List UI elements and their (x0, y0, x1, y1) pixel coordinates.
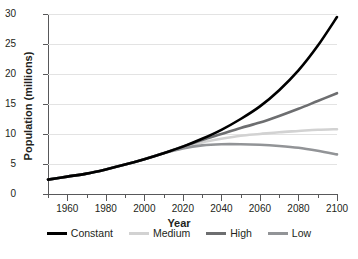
legend-swatch-medium (129, 232, 149, 235)
y-tick-label: 5 (0, 159, 16, 169)
legend-label: Medium (153, 228, 190, 239)
x-tick-mark-major (67, 195, 68, 201)
y-axis-title: Population (millions) (22, 26, 34, 186)
legend-label: Constant (71, 228, 113, 239)
x-tick-mark-minor (87, 195, 88, 198)
series-line-low (48, 144, 337, 180)
x-tick-mark-minor (279, 195, 280, 198)
y-tick-label: 30 (0, 9, 16, 19)
legend-label: High (230, 228, 252, 239)
x-tick-mark-major (106, 195, 107, 201)
series-line-high (48, 93, 337, 179)
legend-swatch-low (268, 232, 288, 235)
x-tick-label: 2020 (163, 203, 203, 214)
legend: ConstantMediumHighLow (0, 228, 358, 239)
x-tick-mark-major (183, 195, 184, 201)
x-tick-mark-major (337, 195, 338, 201)
y-tick-label: 15 (0, 99, 16, 109)
x-tick-mark-minor (125, 195, 126, 198)
legend-swatch-high (206, 232, 226, 235)
y-tick-label: 25 (0, 39, 16, 49)
x-tick-mark-major (221, 195, 222, 201)
y-tick-mark (43, 134, 48, 135)
x-tick-mark-minor (241, 195, 242, 198)
y-tick-mark (43, 74, 48, 75)
x-tick-label: 1980 (86, 203, 126, 214)
x-tick-label: 1960 (47, 203, 87, 214)
x-tick-mark-minor (202, 195, 203, 198)
y-tick-mark (43, 44, 48, 45)
x-axis-line (48, 194, 338, 195)
series-lines (48, 14, 337, 194)
legend-item-low[interactable]: Low (268, 228, 311, 239)
legend-label: Low (292, 228, 311, 239)
population-projection-chart: Population (millions) 051015202530 19601… (0, 0, 358, 259)
series-line-constant (48, 17, 337, 180)
legend-item-constant[interactable]: Constant (47, 228, 113, 239)
x-tick-label: 2080 (278, 203, 318, 214)
x-tick-label: 2060 (240, 203, 280, 214)
plot-area (48, 14, 337, 194)
y-tick-label: 20 (0, 69, 16, 79)
legend-item-high[interactable]: High (206, 228, 252, 239)
x-tick-mark-minor (48, 195, 49, 198)
y-tick-label: 0 (0, 189, 16, 199)
x-tick-mark-major (144, 195, 145, 201)
x-tick-label: 2100 (317, 203, 357, 214)
y-tick-mark (43, 164, 48, 165)
legend-item-medium[interactable]: Medium (129, 228, 190, 239)
x-tick-label: 2040 (201, 203, 241, 214)
x-tick-mark-major (260, 195, 261, 201)
x-tick-mark-minor (164, 195, 165, 198)
x-tick-mark-minor (318, 195, 319, 198)
x-tick-label: 2000 (124, 203, 164, 214)
y-tick-mark (43, 14, 48, 15)
y-tick-mark (43, 104, 48, 105)
legend-swatch-constant (47, 232, 67, 235)
x-tick-mark-major (298, 195, 299, 201)
y-tick-label: 10 (0, 129, 16, 139)
